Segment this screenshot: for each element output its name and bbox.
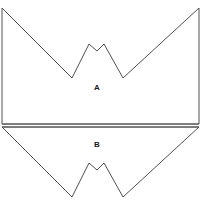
shape-b-label: B: [94, 141, 100, 149]
canvas-background: [0, 0, 207, 223]
figure-container: A B: [0, 0, 207, 223]
shape-a-label: A: [94, 84, 100, 92]
geometry-diagram-svg: [0, 0, 207, 223]
